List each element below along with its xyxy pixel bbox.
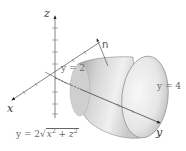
sqrt-sign: √ <box>40 129 46 139</box>
plus-sign: + <box>56 129 69 139</box>
surface-equation-radicand: x2 + z2 <box>46 128 79 139</box>
plane-y4-label: y = 4 <box>157 82 181 91</box>
surface-equation-lhs: y = 2 <box>16 129 40 139</box>
plane-y2-label: y = 2 <box>61 64 85 73</box>
exp-z: 2 <box>74 127 78 134</box>
surface-equation: y = 2√x2 + z2 <box>16 128 79 139</box>
z-axis-label: z <box>44 8 50 19</box>
normal-label: n <box>102 40 108 50</box>
z-axis <box>52 16 58 118</box>
origin-cross <box>45 72 68 84</box>
x-axis-label: x <box>7 103 13 114</box>
y-axis-label: y <box>156 127 162 138</box>
